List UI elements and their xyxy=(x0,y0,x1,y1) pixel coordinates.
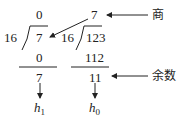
left-remainder: 7 xyxy=(36,71,43,85)
right-remainder: 11 xyxy=(89,71,102,85)
left-dividend: 7 xyxy=(36,31,43,45)
right-divisor: 16 xyxy=(61,31,74,45)
right-quotient: 7 xyxy=(91,8,98,22)
left-divisor: 16 xyxy=(4,31,17,45)
right-dividend: 123 xyxy=(86,31,106,45)
right-division-bracket xyxy=(76,26,84,50)
left-quotient: 0 xyxy=(36,8,43,22)
left-product: 0 xyxy=(36,51,43,65)
left-result: h1 xyxy=(34,101,45,119)
right-product: 112 xyxy=(85,51,104,65)
remainder-label: 余数 xyxy=(152,69,176,83)
quotient-label: 商 xyxy=(152,8,164,22)
left-division-bracket xyxy=(22,26,30,50)
right-result: h0 xyxy=(89,101,100,119)
